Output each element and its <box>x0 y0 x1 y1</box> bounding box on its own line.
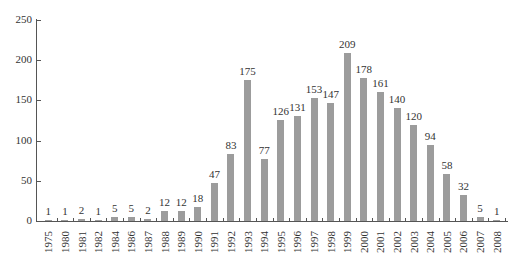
x-tick-label: 2003 <box>408 231 420 253</box>
x-tick-label: 1984 <box>109 231 121 253</box>
bar-value-label: 1 <box>482 205 512 217</box>
y-axis <box>36 19 37 221</box>
bar-1994 <box>261 159 268 221</box>
bar-1984 <box>111 217 118 221</box>
x-tick <box>306 218 307 221</box>
x-tick <box>156 218 157 221</box>
bar-1992 <box>227 154 234 221</box>
x-tick-label: 1998 <box>325 231 337 253</box>
x-tick-label: 1982 <box>92 231 104 253</box>
y-tick <box>37 141 41 142</box>
x-tick-label: 1981 <box>76 231 88 253</box>
bar-1986 <box>128 217 135 221</box>
x-tick <box>488 218 489 221</box>
x-tick-label: 2008 <box>491 231 503 253</box>
bar-1998 <box>327 103 334 221</box>
bar-2000 <box>360 78 367 221</box>
x-tick-label: 1996 <box>291 231 303 253</box>
x-tick <box>73 218 74 221</box>
bar-1990 <box>194 207 201 221</box>
x-axis <box>36 221 508 222</box>
bar-value-label: 58 <box>432 159 462 171</box>
bar-value-label: 131 <box>282 101 312 113</box>
x-tick <box>405 218 406 221</box>
x-tick <box>356 218 357 221</box>
bar-1989 <box>178 211 185 221</box>
y-tick-label: 150 <box>2 93 32 105</box>
x-tick-label: 1991 <box>208 231 220 253</box>
x-tick-label: 1990 <box>192 231 204 253</box>
bar-1987 <box>144 219 151 221</box>
x-tick-label: 1988 <box>159 231 171 253</box>
bar-value-label: 175 <box>233 65 263 77</box>
x-tick <box>289 218 290 221</box>
bar-1980 <box>61 220 68 221</box>
x-tick <box>389 218 390 221</box>
y-tick-label: 200 <box>2 53 32 65</box>
bar-1982 <box>95 220 102 221</box>
x-tick <box>273 218 274 221</box>
bar-value-label: 209 <box>332 38 362 50</box>
bar-1997 <box>311 98 318 221</box>
x-tick-label: 1997 <box>308 231 320 253</box>
x-tick <box>505 218 506 221</box>
bar-value-label: 178 <box>349 63 379 75</box>
y-tick <box>37 100 41 101</box>
bar-value-label: 120 <box>399 110 429 122</box>
bar-1981 <box>78 219 85 221</box>
x-tick-label: 2002 <box>391 231 403 253</box>
y-tick-label: 100 <box>2 134 32 146</box>
x-tick <box>339 218 340 221</box>
x-tick <box>106 218 107 221</box>
y-tick-label: 250 <box>2 13 32 25</box>
bar-1999 <box>344 53 351 221</box>
bar-1991 <box>211 183 218 221</box>
x-tick <box>256 218 257 221</box>
bar-chart: 050100150200250 119751198021981119825198… <box>0 0 523 266</box>
bar-1975 <box>45 220 52 221</box>
x-tick-label: 2006 <box>457 231 469 253</box>
x-tick-label: 1999 <box>341 231 353 253</box>
x-tick <box>140 218 141 221</box>
y-tick-label: 50 <box>2 174 32 186</box>
y-tick <box>37 60 41 61</box>
bar-value-label: 47 <box>199 168 229 180</box>
x-tick <box>189 218 190 221</box>
x-tick <box>472 218 473 221</box>
x-tick <box>173 218 174 221</box>
x-tick <box>322 218 323 221</box>
x-tick-label: 2004 <box>424 231 436 253</box>
bar-1995 <box>277 120 284 221</box>
bar-2004 <box>427 145 434 221</box>
x-tick-label: 1987 <box>142 231 154 253</box>
bar-value-label: 161 <box>365 77 395 89</box>
x-tick-label: 1986 <box>125 231 137 253</box>
x-tick <box>372 218 373 221</box>
bar-value-label: 77 <box>249 144 279 156</box>
x-tick-label: 2001 <box>374 231 386 253</box>
x-tick <box>239 218 240 221</box>
x-tick <box>57 218 58 221</box>
bar-value-label: 94 <box>415 130 445 142</box>
x-tick-label: 1993 <box>242 231 254 253</box>
bar-2008 <box>493 220 500 221</box>
bar-1996 <box>294 116 301 221</box>
x-tick-label: 2005 <box>441 231 453 253</box>
bar-value-label: 147 <box>316 88 346 100</box>
x-tick-label: 1995 <box>275 231 287 253</box>
bar-value-label: 32 <box>448 180 478 192</box>
x-tick <box>90 218 91 221</box>
x-tick-label: 2000 <box>358 231 370 253</box>
x-tick <box>422 218 423 221</box>
y-tick <box>37 221 41 222</box>
bar-1988 <box>161 211 168 221</box>
y-tick <box>37 181 41 182</box>
x-tick-label: 2007 <box>474 231 486 253</box>
x-tick <box>123 218 124 221</box>
y-tick <box>37 20 41 21</box>
x-tick-label: 1989 <box>175 231 187 253</box>
x-tick <box>455 218 456 221</box>
x-tick-label: 1975 <box>42 231 54 253</box>
bar-value-label: 18 <box>183 192 213 204</box>
bar-2001 <box>377 92 384 221</box>
